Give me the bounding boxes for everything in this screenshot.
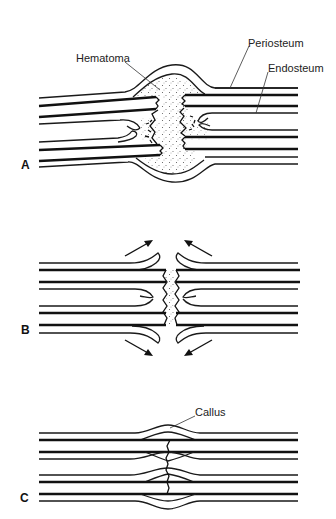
panel-label-a: A bbox=[21, 158, 30, 172]
panel-label-b: B bbox=[21, 323, 30, 337]
panel-b: B bbox=[21, 240, 300, 356]
arrow-up-right bbox=[184, 240, 212, 256]
endosteum-label: Endosteum bbox=[268, 62, 324, 74]
endosteum-left-lower bbox=[39, 131, 132, 142]
endosteum-right-lower bbox=[199, 123, 298, 130]
panel-label-c: C bbox=[20, 491, 29, 505]
callus-leader bbox=[170, 416, 195, 428]
healed-fracture-line bbox=[166, 440, 170, 494]
hematoma-label: Hematoma bbox=[76, 52, 131, 64]
callus-label: Callus bbox=[195, 406, 226, 418]
panel-a: Hematoma Periosteum Endosteum A bbox=[21, 37, 324, 182]
panel-c: Callus C bbox=[20, 406, 298, 509]
callus-outer-bottom bbox=[39, 501, 298, 509]
periosteum-leader bbox=[230, 46, 249, 88]
periosteum-label: Periosteum bbox=[248, 37, 304, 49]
fracture-healing-diagram: Hematoma Periosteum Endosteum A bbox=[0, 0, 336, 519]
arrow-up-left bbox=[125, 240, 153, 256]
arrow-down-right bbox=[184, 340, 212, 356]
arrow-down-left bbox=[125, 340, 153, 356]
hematoma-leader bbox=[125, 62, 160, 90]
